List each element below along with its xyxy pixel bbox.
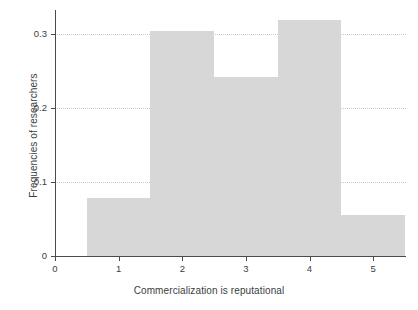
bar-1[interactable] [87,198,151,256]
bar-4[interactable] [278,20,342,256]
x-tick-mark-4 [310,257,311,261]
x-axis-line [55,256,406,257]
y-tick-mark-0.3 [51,34,55,35]
bar-5[interactable] [341,215,405,256]
histogram-figure: Frequencies of researchers 0 0.1 0.2 0.3… [0,0,418,310]
y-tick-mark-0.1 [51,182,55,183]
x-tick-label-3: 3 [231,263,261,275]
x-axis-title: Commercialization is reputational [0,285,418,296]
x-tick-mark-2 [182,257,183,261]
x-tick-mark-5 [373,257,374,261]
x-tick-label-0: 0 [40,263,70,275]
x-tick-label-5: 5 [358,263,388,275]
bar-2[interactable] [150,31,214,256]
y-tick-mark-0.2 [51,108,55,109]
x-tick-mark-1 [119,257,120,261]
x-tick-label-1: 1 [104,263,134,275]
y-tick-label-0.1: 0.1 [7,177,47,187]
x-tick-mark-0 [55,257,56,261]
y-axis-title: Frequencies of researchers [28,51,39,221]
bars-layer [55,10,406,256]
y-tick-label-0.3: 0.3 [7,29,47,39]
x-tick-mark-3 [246,257,247,261]
y-axis-line [55,10,56,257]
bar-3[interactable] [214,77,278,256]
x-tick-label-4: 4 [295,263,325,275]
y-tick-label-0: 0 [7,251,47,261]
x-tick-label-2: 2 [167,263,197,275]
y-tick-label-0.2: 0.2 [7,103,47,113]
